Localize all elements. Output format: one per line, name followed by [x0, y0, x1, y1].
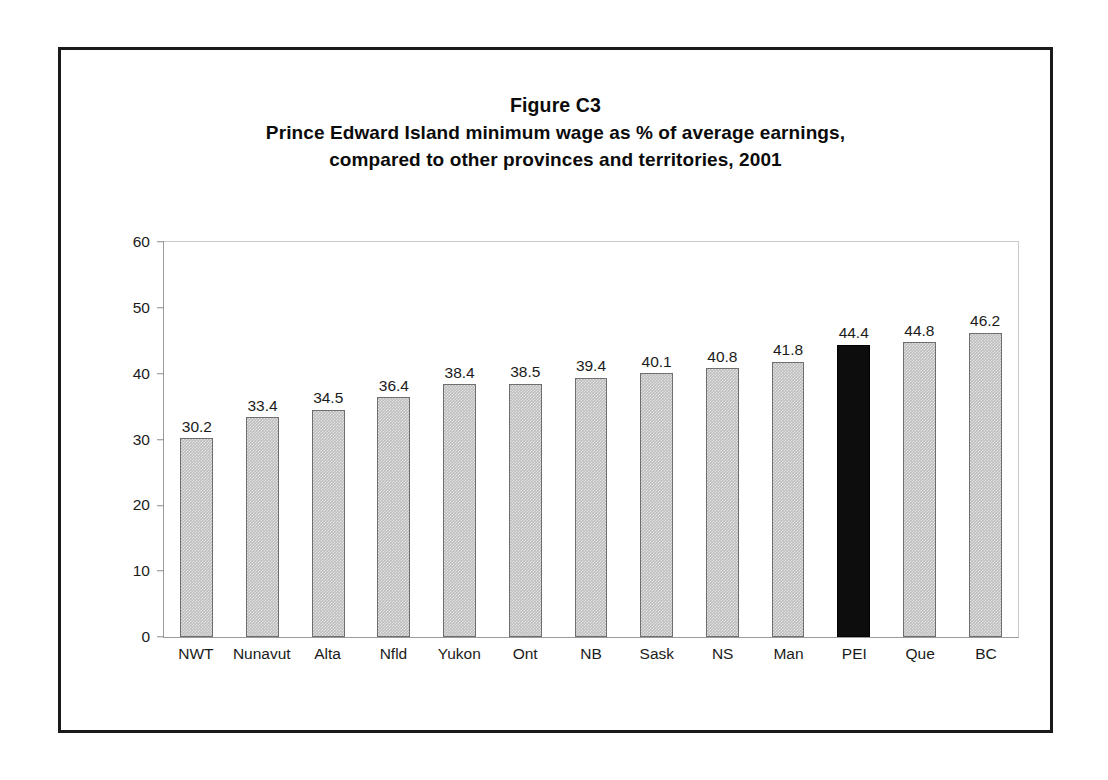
- y-axis-tick-label: 0: [141, 629, 157, 645]
- bar-value-label: 44.4: [839, 325, 869, 341]
- bar-slot: 36.4: [361, 242, 427, 637]
- y-axis-tick: 40: [133, 366, 164, 382]
- bar-nb[interactable]: 39.4: [575, 378, 608, 637]
- y-axis-tick: 60: [133, 234, 164, 250]
- x-axis-label-bc: BC: [953, 646, 1019, 662]
- bar-value-label: 38.4: [445, 365, 475, 381]
- bar-slot: 40.8: [690, 242, 756, 637]
- y-axis-tick-mark: [157, 307, 164, 308]
- x-axis-label-ont: Ont: [492, 646, 558, 662]
- bar-ns[interactable]: 40.8: [706, 368, 739, 637]
- bar-slot: 38.4: [427, 242, 493, 637]
- y-axis-tick: 0: [141, 629, 164, 645]
- bar-ont[interactable]: 38.5: [509, 384, 542, 637]
- bar-slot: 46.2: [952, 242, 1018, 637]
- y-axis-tick: 30: [133, 432, 164, 448]
- bar-slot: 41.8: [755, 242, 821, 637]
- y-axis-tick-mark: [157, 637, 164, 638]
- bar-yukon[interactable]: 38.4: [443, 384, 476, 637]
- bar-value-label: 46.2: [970, 313, 1000, 329]
- y-axis-tick-mark: [157, 571, 164, 572]
- bar-man[interactable]: 41.8: [772, 362, 805, 637]
- bar-value-label: 44.8: [904, 323, 934, 339]
- x-axis-label-sask: Sask: [624, 646, 690, 662]
- y-axis-tick-label: 20: [133, 498, 157, 514]
- bar-bc[interactable]: 46.2: [969, 333, 1002, 637]
- y-axis-tick-label: 30: [133, 432, 157, 448]
- bar-value-label: 39.4: [576, 358, 606, 374]
- plot-area: 0102030405060 30.233.434.536.438.438.539…: [163, 241, 1019, 638]
- y-axis-tick-label: 40: [133, 366, 157, 382]
- bar-slot: 34.5: [295, 242, 361, 637]
- bar-series: 30.233.434.536.438.438.539.440.140.841.8…: [164, 242, 1018, 637]
- bar-value-label: 40.1: [642, 354, 672, 370]
- bar-value-label: 38.5: [510, 364, 540, 380]
- x-axis-label-alta: Alta: [295, 646, 361, 662]
- bar-value-label: 30.2: [182, 419, 212, 435]
- bar-slot: 30.2: [164, 242, 230, 637]
- bar-nfld[interactable]: 36.4: [377, 397, 410, 637]
- y-axis-tick-label: 60: [133, 234, 157, 250]
- bar-value-label: 41.8: [773, 342, 803, 358]
- bar-chart: 0102030405060 30.233.434.536.438.438.539…: [61, 50, 1056, 736]
- bar-value-label: 40.8: [707, 349, 737, 365]
- y-axis-tick-mark: [157, 242, 164, 243]
- x-axis-label-que: Que: [887, 646, 953, 662]
- bar-value-label: 34.5: [313, 390, 343, 406]
- bar-nwt[interactable]: 30.2: [180, 438, 213, 637]
- y-axis-tick: 20: [133, 498, 164, 514]
- bar-alta[interactable]: 34.5: [312, 410, 345, 637]
- y-axis-tick-mark: [157, 373, 164, 374]
- bar-slot: 33.4: [230, 242, 296, 637]
- y-axis-tick-mark: [157, 439, 164, 440]
- x-axis-label-nb: NB: [558, 646, 624, 662]
- bar-value-label: 33.4: [247, 398, 277, 414]
- bar-pei[interactable]: 44.4: [837, 345, 870, 637]
- bar-value-label: 36.4: [379, 378, 409, 394]
- x-axis-label-yukon: Yukon: [426, 646, 492, 662]
- x-axis-label-pei: PEI: [821, 646, 887, 662]
- bar-slot: 40.1: [624, 242, 690, 637]
- bar-sask[interactable]: 40.1: [640, 373, 673, 637]
- bar-que[interactable]: 44.8: [903, 342, 936, 637]
- bar-nunavut[interactable]: 33.4: [246, 417, 279, 637]
- x-axis-label-ns: NS: [690, 646, 756, 662]
- scanned-page: Figure C3 Prince Edward Island minimum w…: [0, 0, 1108, 780]
- x-axis-label-nwt: NWT: [163, 646, 229, 662]
- y-axis-tick: 10: [133, 563, 164, 579]
- bar-slot: 38.5: [492, 242, 558, 637]
- figure-frame: Figure C3 Prince Edward Island minimum w…: [58, 47, 1053, 733]
- y-axis-tick-label: 10: [133, 563, 157, 579]
- y-axis-tick-label: 50: [133, 300, 157, 316]
- x-axis-label-nfld: Nfld: [361, 646, 427, 662]
- x-axis-label-man: Man: [756, 646, 822, 662]
- x-axis-labels: NWTNunavutAltaNfldYukonOntNBSaskNSManPEI…: [163, 646, 1019, 662]
- bar-slot: 44.4: [821, 242, 887, 637]
- bar-slot: 39.4: [558, 242, 624, 637]
- y-axis-tick: 50: [133, 300, 164, 316]
- bar-slot: 44.8: [887, 242, 953, 637]
- y-axis-tick-mark: [157, 505, 164, 506]
- x-axis-label-nunavut: Nunavut: [229, 646, 295, 662]
